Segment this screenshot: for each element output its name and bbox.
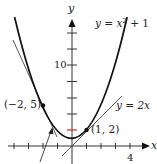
curve-label-lhs: y =: [95, 17, 116, 29]
line-label: y = 2x: [116, 100, 150, 111]
x-axis-arrow-icon: [142, 143, 150, 150]
point-neg2-5: [41, 103, 45, 107]
point-1-2: [84, 128, 88, 132]
y-tick-label-10: 10: [54, 60, 67, 70]
point-label-neg2-5: (−2, 5): [4, 99, 41, 110]
x-tick-label-4: 4: [127, 153, 133, 163]
curve-label-rest: + 1: [127, 17, 149, 29]
curve-label: y = x2 + 1: [95, 18, 149, 29]
y-axis-arrow-icon: [69, 19, 76, 27]
point-label-1-2: (1, 2): [91, 124, 119, 135]
x-axis-label: x: [151, 140, 157, 151]
parabola-curve: [15, 17, 128, 138]
y-axis-label: y: [68, 3, 74, 14]
